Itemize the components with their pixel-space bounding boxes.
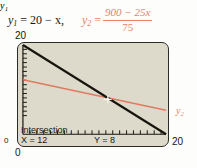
line-y1 [23,45,166,134]
equation-y1: y1 = 20 − x, [8,13,64,28]
intersection-x-value: X = 12 [21,135,47,145]
origin-label-below: 0 [15,147,21,158]
line-y2 [23,80,166,110]
equation-y1-equals: = [20,13,27,27]
equation-y1-subscript: 1 [13,19,17,28]
equation-y2-denominator: 75 [120,21,135,34]
y-axis-max-label: 20 [15,30,26,41]
equation-y2-fraction: 900 − 25x 75 [103,7,152,33]
equation-y2-equals: = [94,13,101,28]
equation-y2-numerator: 900 − 25x [103,7,152,20]
x-axis-max-label: 20 [172,136,183,147]
equation-y2-subscript: 2 [87,19,91,28]
equation-y2-lhs: y2 [82,13,91,28]
equation-header: y1 = 20 − x, y2 = 900 − 25x 75 [8,5,193,33]
y2-line-label: y₂ [176,105,184,116]
equation-y2: y2 = 900 − 25x 75 [82,7,152,33]
equation-y1-rhs: 20 − x, [30,13,64,27]
graph-figure: y1 = 20 − x, y2 = 900 − 25x 75 [0,0,197,168]
intersection-readout-title: Intersection [21,125,68,135]
origin-label-left: 0 [4,136,8,145]
intersection-y-value: Y = 8 [94,135,115,145]
